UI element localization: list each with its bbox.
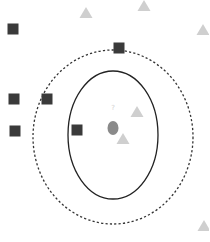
class-a-squares — [8, 24, 125, 137]
square-marker — [114, 43, 125, 54]
square-marker — [42, 94, 53, 105]
square-marker — [8, 24, 19, 35]
query-question-mark: ? — [111, 104, 115, 112]
triangle-marker — [138, 0, 151, 11]
triangle-marker — [80, 7, 93, 18]
triangle-marker — [197, 24, 210, 35]
triangle-marker — [198, 220, 210, 231]
square-marker — [10, 126, 21, 137]
triangle-marker — [117, 133, 130, 144]
query-point-circle — [108, 121, 119, 135]
square-marker — [9, 94, 20, 105]
knn-diagram: ? — [0, 0, 209, 242]
square-marker — [72, 125, 83, 136]
triangle-marker — [131, 106, 144, 117]
outer-neighborhood-circle — [33, 50, 193, 224]
